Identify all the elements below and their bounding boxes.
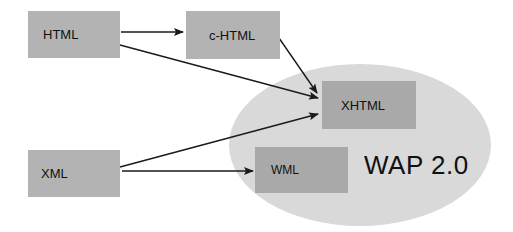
- node-wml: WML: [255, 147, 348, 193]
- node-xhtml-label: XHTML: [341, 98, 385, 113]
- diagram-canvas: HTML c-HTML XHTML XML WML WAP 2.0: [0, 0, 513, 232]
- node-xhtml: XHTML: [322, 81, 416, 129]
- wap-2-0-label: WAP 2.0: [364, 150, 469, 181]
- arrow-chtml-to-xhtml: [279, 38, 317, 93]
- node-html: HTML: [28, 11, 120, 58]
- node-xml-label: XML: [41, 166, 68, 181]
- node-html-label: HTML: [43, 27, 78, 42]
- node-xml: XML: [28, 150, 120, 197]
- node-chtml-label: c-HTML: [209, 28, 255, 43]
- node-chtml: c-HTML: [186, 11, 280, 59]
- node-wml-label: WML: [271, 163, 299, 177]
